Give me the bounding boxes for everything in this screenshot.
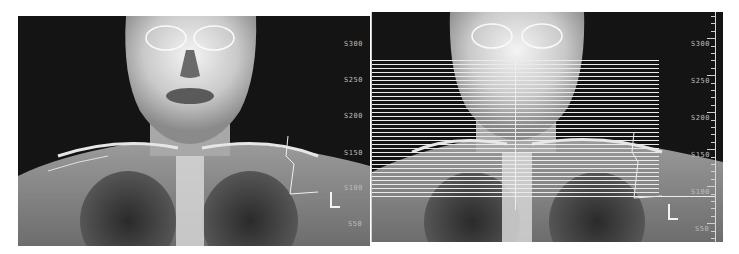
slice-center-line[interactable]: [515, 60, 516, 210]
ruler-tick: [711, 208, 715, 209]
ruler-tick: [711, 120, 715, 121]
ruler-tick: [711, 83, 715, 84]
ruler-tick: [711, 105, 715, 106]
ruler-tick: [711, 134, 715, 135]
ruler-tick: [711, 201, 715, 202]
axis-label-s150: S150: [344, 149, 363, 157]
ruler-tick: [711, 31, 715, 32]
ruler-tick: [711, 53, 715, 54]
ruler-tick: [711, 68, 715, 69]
axis-label-s100: S100: [691, 188, 710, 196]
ruler-tick: [711, 23, 715, 24]
axis-label-s300: S300: [344, 40, 363, 48]
axis-label-s150: S150: [691, 151, 710, 159]
axis-label-s250: S250: [344, 76, 363, 84]
axis-label-s200: S200: [691, 114, 710, 122]
ruler-tick: [711, 194, 715, 195]
ruler-tick: [711, 231, 715, 232]
axis-label-s250: S250: [691, 77, 710, 85]
ruler-tick: [711, 60, 715, 61]
ruler-tick: [711, 16, 715, 17]
ruler-tick: [711, 97, 715, 98]
ruler-tick: [711, 90, 715, 91]
scout-image-left[interactable]: S300 S250 S200 S150 S100 S50: [18, 16, 370, 246]
ruler-tick: [711, 127, 715, 128]
axis-label-s50: S50: [695, 225, 709, 233]
ruler-tick: [711, 179, 715, 180]
slice-lines-overlay[interactable]: [372, 60, 715, 200]
position-ruler: [715, 12, 716, 242]
axis-label-s300: S300: [691, 40, 710, 48]
ruler-tick: [711, 157, 715, 158]
axis-label-s50: S50: [348, 220, 362, 228]
ruler-tick: [711, 216, 715, 217]
slice-line: [372, 196, 715, 197]
ruler-tick: [711, 164, 715, 165]
axis-label-s200: S200: [344, 112, 363, 120]
laterality-marker-right: [668, 204, 678, 220]
ruler-tick: [711, 142, 715, 143]
axis-label-s100: S100: [344, 184, 363, 192]
xray-image-left: [18, 16, 370, 246]
ruler-tick: [711, 238, 715, 239]
scout-image-right[interactable]: S300 S250 S200 S150 S100 S50: [371, 12, 723, 242]
ruler-tick: [711, 46, 715, 47]
ruler-tick: [711, 171, 715, 172]
laterality-marker-left: [330, 192, 340, 208]
